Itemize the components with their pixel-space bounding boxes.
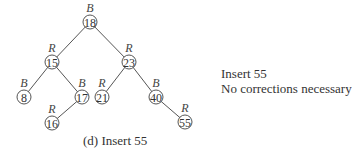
- tree-node: 23: [122, 55, 137, 70]
- tree-node: 15: [45, 55, 60, 70]
- node-color-label: B: [78, 77, 85, 89]
- tree-node: 55: [178, 115, 193, 130]
- tree-node: 17: [75, 90, 90, 105]
- node-color-label: R: [98, 77, 105, 89]
- tree-node: 18: [83, 15, 98, 30]
- tree-node: 40: [149, 90, 164, 105]
- side-note-title: Insert 55: [221, 66, 267, 81]
- node-color-label: R: [48, 42, 55, 54]
- figure-caption: (d) Insert 55: [83, 133, 147, 148]
- node-color-label: R: [48, 103, 55, 115]
- tree-node: 8: [17, 90, 32, 105]
- node-color-label: R: [181, 102, 188, 114]
- tree-node: 21: [95, 90, 110, 105]
- side-note-detail: No corrections necessary: [221, 81, 352, 96]
- node-color-label: B: [152, 77, 159, 89]
- tree-node: 16: [45, 116, 60, 131]
- node-color-label: B: [20, 77, 27, 89]
- node-color-label: R: [125, 42, 132, 54]
- node-color-label: B: [86, 2, 93, 14]
